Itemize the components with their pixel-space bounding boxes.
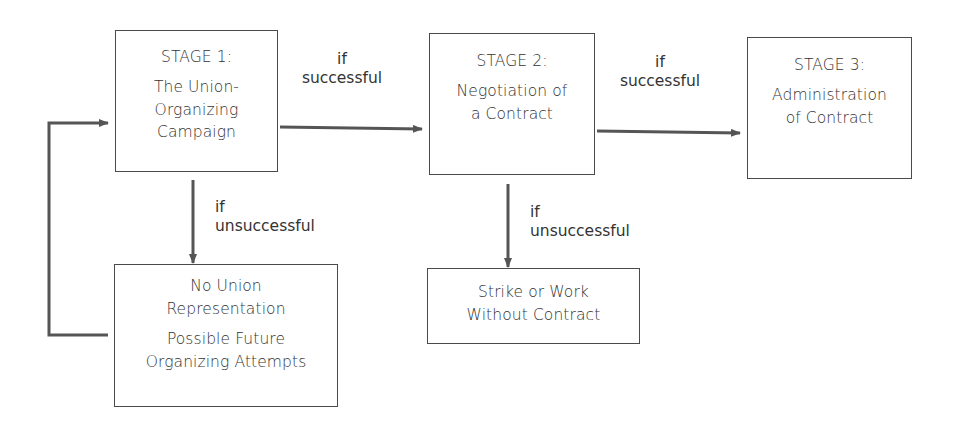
stage1-text-line: Organizing — [155, 99, 239, 122]
stage2-box: STAGE 2: Negotiation of a Contract — [429, 33, 595, 175]
stage2-heading: STAGE 2: — [476, 50, 547, 72]
stage3-text-line: Administration — [772, 84, 887, 107]
edge-label-line: unsuccessful — [215, 217, 335, 236]
strike-box: Strike or Work Without Contract — [427, 268, 640, 344]
stage2-text-line: a Contract — [471, 103, 553, 126]
stage1-heading: STAGE 1: — [161, 46, 232, 68]
edge-label-line: successful — [610, 72, 710, 91]
no-union-text-line: Possible Future — [167, 328, 285, 351]
edge-label-stage2-to-strike: if unsuccessful — [530, 203, 650, 241]
edge-label-line: successful — [292, 69, 392, 88]
flow-diagram: STAGE 1: The Union- Organizing Campaign … — [0, 0, 953, 440]
edge-label-line: unsuccessful — [530, 222, 650, 241]
stage3-box: STAGE 3: Administration of Contract — [747, 37, 912, 179]
no-union-text-line: Representation — [166, 298, 285, 321]
stage1-text-line: Campaign — [157, 121, 236, 144]
edge-label-line: if — [215, 198, 335, 217]
arrow-stage2-to-stage3 — [597, 131, 740, 133]
no-union-text-line: Organizing Attempts — [146, 351, 307, 374]
stage3-text-line: of Contract — [786, 107, 874, 130]
arrow-stage1-to-stage2 — [280, 127, 422, 129]
stage3-heading: STAGE 3: — [794, 54, 865, 76]
edge-label-line: if — [610, 53, 710, 72]
arrow-no-union-to-stage1 — [49, 123, 108, 335]
no-union-box: No Union Representation Possible Future … — [114, 264, 338, 407]
edge-label-stage2-to-stage3: if successful — [610, 53, 710, 91]
strike-text-line: Without Contract — [467, 304, 601, 327]
edge-label-line: if — [292, 50, 392, 69]
stage1-box: STAGE 1: The Union- Organizing Campaign — [115, 30, 278, 172]
no-union-text-line: No Union — [190, 275, 262, 298]
stage1-text-line: The Union- — [154, 76, 239, 99]
edge-label-line: if — [530, 203, 650, 222]
strike-text-line: Strike or Work — [478, 281, 589, 304]
edge-label-stage1-to-stage2: if successful — [292, 50, 392, 88]
edge-label-stage1-to-no-union: if unsuccessful — [215, 198, 335, 236]
stage2-text-line: Negotiation of — [457, 80, 568, 103]
